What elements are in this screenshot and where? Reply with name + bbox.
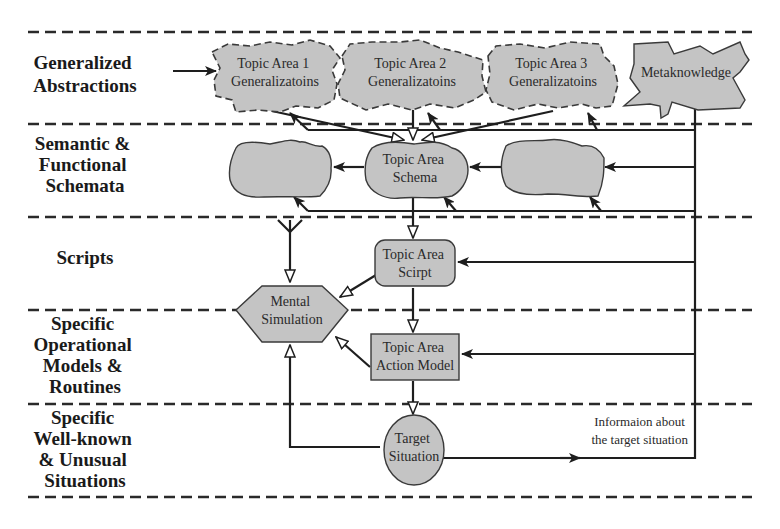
level-label-semantic: Semantic & Functional Schemata: [35, 133, 135, 196]
node-mental-simulation[interactable]: Mental Simulation: [236, 286, 348, 342]
level-label-operational: Specific Operational Models & Routines: [34, 313, 137, 397]
node-topic-area-schema[interactable]: Topic Area Schema: [365, 142, 468, 198]
annotation-target-info: Informaion about the target situation: [591, 414, 688, 447]
svg-text:Metaknowledge: Metaknowledge: [641, 65, 731, 80]
node-topic-area-script[interactable]: Topic Area Scirpt: [375, 240, 455, 286]
node-topic-area-1-generalizations[interactable]: Topic Area 1 Generalizatoins: [212, 40, 340, 112]
node-schema-cloud-left[interactable]: [229, 140, 331, 197]
level-label-generalized: Generalized Abstractions: [33, 52, 136, 96]
level-label-situations: Specific Well-known & Unusual Situations: [34, 407, 137, 491]
node-topic-area-2-generalizations[interactable]: Topic Area 2 Generalizatoins: [338, 40, 486, 110]
knowledge-hierarchy-diagram: Generalized Abstractions Semantic & Func…: [0, 0, 780, 529]
node-target-situation[interactable]: Target Situation: [384, 415, 444, 485]
node-topic-area-action-model[interactable]: Topic Area Action Model: [371, 334, 459, 380]
level-label-scripts: Scripts: [57, 247, 114, 268]
node-schema-cloud-right[interactable]: [502, 139, 605, 196]
node-topic-area-3-generalizations[interactable]: Topic Area 3 Generalizatoins: [486, 42, 618, 110]
node-metaknowledge[interactable]: Metaknowledge: [624, 42, 749, 118]
